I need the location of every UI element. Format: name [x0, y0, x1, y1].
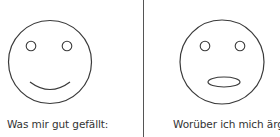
- panel-dislikes: Worüber ich mich ärgere:: [144, 0, 280, 137]
- right-eye: [62, 41, 72, 51]
- left-eye: [26, 41, 36, 51]
- face-outline: [9, 21, 92, 104]
- open-mouth-face-icon: [144, 0, 280, 112]
- panel-likes: Was mir gut gefällt:: [0, 0, 143, 137]
- smile-mouth: [30, 82, 70, 90]
- oval-mouth: [208, 77, 240, 87]
- dislikes-label: Worüber ich mich ärgere:: [173, 118, 280, 130]
- right-eye: [235, 41, 245, 51]
- left-eye: [200, 41, 210, 51]
- face-outline: [180, 20, 264, 104]
- likes-label: Was mir gut gefällt:: [7, 118, 108, 130]
- happy-face-icon: [0, 0, 143, 112]
